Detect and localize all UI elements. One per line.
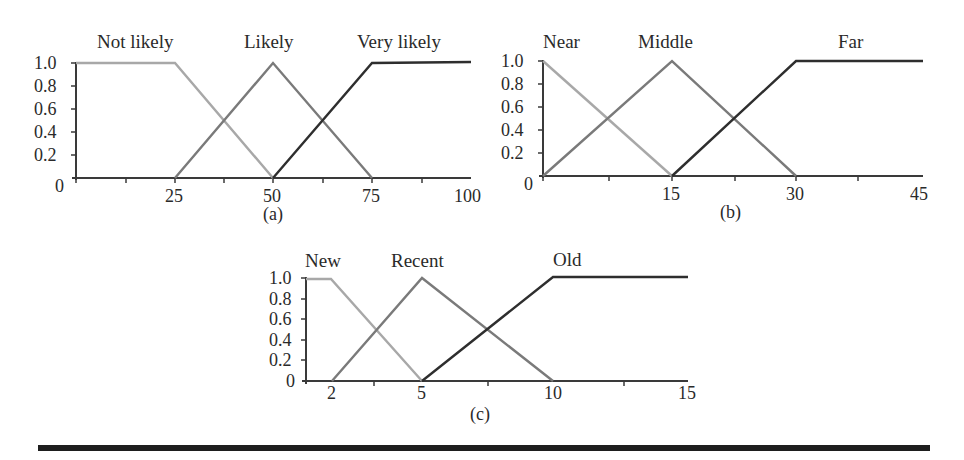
y-tick-0.2: 0.2 (501, 143, 524, 163)
set-label-not-likely: Not likely (97, 31, 174, 52)
set-label-near: Near (543, 31, 581, 52)
x-tick-15: 15 (678, 383, 696, 403)
x-tick-100: 100 (454, 186, 481, 206)
y-tick-0.8: 0.8 (269, 289, 292, 309)
y-tick-0.4: 0.4 (269, 330, 292, 350)
mf-old (422, 277, 688, 381)
set-label-new: New (305, 250, 341, 271)
mf-middle (543, 61, 796, 176)
caption-a: (a) (263, 204, 283, 225)
set-label-middle: Middle (638, 31, 693, 52)
x-tick-15: 15 (662, 184, 680, 204)
x-tick-10: 10 (544, 383, 562, 403)
mf-likely (175, 63, 372, 178)
x-tick-0: 0 (55, 176, 64, 196)
x-tick-75: 75 (362, 186, 380, 206)
x-tick-2: 2 (327, 383, 336, 403)
y-tick-0.4: 0.4 (501, 120, 524, 140)
figure-canvas: Not likely Likely Very likely 1.0 0.8 0.… (0, 0, 964, 460)
y-tick-0.2: 0.2 (269, 350, 292, 370)
y-tick-0.2: 0.2 (34, 145, 57, 165)
set-label-very-likely: Very likely (357, 31, 441, 52)
mf-new (306, 279, 422, 381)
x-tick-5: 5 (417, 383, 426, 403)
chart-c: New Recent Old 1.0 0.8 0.6 0.4 0.2 0 2 5… (269, 249, 696, 425)
set-label-far: Far (838, 31, 864, 52)
set-label-recent: Recent (391, 250, 444, 271)
y-tick-1.0: 1.0 (269, 268, 292, 288)
caption-c: (c) (470, 404, 490, 425)
y-tick-0: 0 (286, 371, 295, 391)
y-tick-0.6: 0.6 (269, 309, 292, 329)
mf-far (672, 61, 923, 176)
set-label-old: Old (553, 249, 582, 270)
bottom-rule (38, 445, 930, 451)
chart-a: Not likely Likely Very likely 1.0 0.8 0.… (34, 31, 481, 225)
x-tick-30: 30 (786, 184, 804, 204)
mf-not-likely (76, 63, 273, 178)
x-tick-45: 45 (910, 184, 928, 204)
y-tick-0.6: 0.6 (34, 99, 57, 119)
x-tick-50: 50 (263, 186, 281, 206)
x-tick-0: 0 (524, 174, 533, 194)
set-label-likely: Likely (244, 31, 294, 52)
y-tick-1.0: 1.0 (501, 51, 524, 71)
y-tick-1.0: 1.0 (34, 53, 57, 73)
y-tick-0.8: 0.8 (501, 74, 524, 94)
chart-b: Near Middle Far 1.0 0.8 0.6 0.4 0.2 0 15… (501, 31, 928, 223)
y-tick-0.4: 0.4 (34, 122, 57, 142)
x-tick-25: 25 (165, 186, 183, 206)
mf-very-likely (273, 62, 471, 178)
caption-b: (b) (720, 202, 741, 223)
y-tick-0.6: 0.6 (501, 97, 524, 117)
y-tick-0.8: 0.8 (34, 76, 57, 96)
